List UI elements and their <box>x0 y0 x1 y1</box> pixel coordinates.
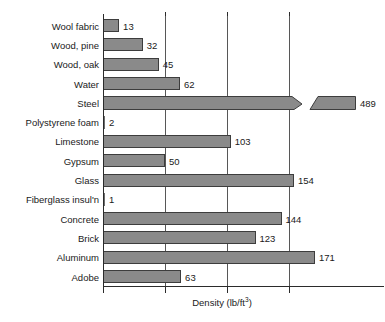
bar <box>103 19 119 32</box>
tick-top-100 <box>227 12 228 16</box>
value-label: 154 <box>298 176 314 186</box>
x-axis-title-suffix: ) <box>249 297 252 308</box>
gridline-100 <box>227 16 228 286</box>
category-label: Aluminum <box>57 253 99 263</box>
category-label: Concrete <box>60 215 99 225</box>
gridline-150 <box>289 16 290 286</box>
tick-top-150 <box>289 12 290 16</box>
x-axis-title-text: Density (lb/ft <box>192 297 245 308</box>
tick-50 <box>165 287 166 293</box>
bar <box>103 38 143 51</box>
horizontal-bar-chart: Wool fabricWood, pineWood, oakWaterSteel… <box>0 0 385 322</box>
value-label: 489 <box>360 99 376 109</box>
value-label: 13 <box>123 22 134 32</box>
value-label: 144 <box>286 215 302 225</box>
value-label: 63 <box>185 273 196 283</box>
category-label: Adobe <box>72 273 99 283</box>
value-label: 123 <box>260 234 276 244</box>
bar <box>103 231 256 244</box>
value-label: 45 <box>163 60 174 70</box>
bar-broken-axis <box>103 96 358 111</box>
category-label: Wood, oak <box>54 60 99 70</box>
value-label: 2 <box>109 118 114 128</box>
gridline-50 <box>165 16 166 286</box>
category-label: Wood, pine <box>51 41 99 51</box>
category-label: Water <box>74 80 99 90</box>
y-axis-line <box>103 14 104 288</box>
bar <box>103 174 294 187</box>
category-label: Wool fabric <box>52 22 99 32</box>
x-axis-title: Density (lb/ft3) <box>192 298 252 308</box>
bar-segment-right <box>310 97 356 110</box>
category-label: Glass <box>75 176 99 186</box>
bar <box>103 270 181 283</box>
tick-150 <box>289 287 290 293</box>
bar <box>103 58 159 71</box>
tick-0 <box>103 287 104 293</box>
value-label: 62 <box>184 80 195 90</box>
category-label: Polystyrene foam <box>26 118 99 128</box>
value-label: 103 <box>235 137 251 147</box>
category-label: Fiberglass insul'n <box>26 195 99 205</box>
tick-top-50 <box>165 12 166 16</box>
category-label: Gypsum <box>64 157 99 167</box>
value-label: 50 <box>169 157 180 167</box>
bar <box>103 154 165 167</box>
tick-100 <box>227 287 228 293</box>
bar <box>103 212 282 225</box>
bar-segment-left <box>104 97 303 110</box>
category-label: Limestone <box>55 137 99 147</box>
bar <box>103 251 315 264</box>
bar <box>103 135 231 148</box>
category-label: Steel <box>77 99 99 109</box>
category-label: Brick <box>78 234 99 244</box>
value-label: 171 <box>319 253 335 263</box>
value-label: 32 <box>147 41 158 51</box>
bar <box>103 77 180 90</box>
value-label: 1 <box>109 195 114 205</box>
x-axis-line <box>103 286 384 287</box>
